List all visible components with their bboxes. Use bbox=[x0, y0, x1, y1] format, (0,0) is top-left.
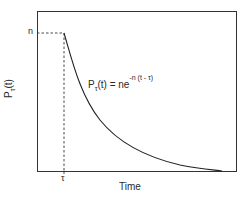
chart-canvas bbox=[0, 0, 247, 201]
y-tick-n: n bbox=[28, 26, 33, 36]
y-axis-label-arg: (t) bbox=[3, 79, 14, 88]
equation-annotation: Pτ(t) = ne-n (t - τ) bbox=[88, 78, 153, 92]
equation-lhs: P bbox=[88, 79, 95, 90]
equation-rhs: (t) = ne bbox=[97, 79, 129, 90]
y-axis-label: Pτ(t) bbox=[3, 79, 16, 98]
x-axis-label: Time bbox=[119, 181, 141, 192]
y-axis-label-main: P bbox=[3, 91, 14, 98]
x-tick-tau: τ bbox=[61, 173, 65, 183]
equation-exponent: -n (t - τ) bbox=[129, 74, 153, 81]
decay-curve bbox=[64, 33, 222, 171]
